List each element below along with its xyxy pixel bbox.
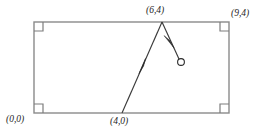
- billiard-table-diagram: (0,0) (4,0) (6,4) (9,4): [0, 0, 262, 135]
- ball-icon: [178, 59, 185, 66]
- path-segment-outgoing: [162, 22, 179, 59]
- right-angle-markers: [34, 22, 229, 113]
- corner-marker-top-left: [34, 22, 43, 31]
- coordinate-label-bottom-point: (4,0): [110, 117, 128, 127]
- corner-marker-bottom-left: [34, 104, 43, 113]
- coordinate-label-top-right: (9,4): [231, 9, 249, 19]
- table-rectangle: [34, 22, 229, 113]
- coordinate-label-origin: (0,0): [6, 115, 24, 125]
- diagram-canvas: [0, 0, 262, 135]
- corner-marker-bottom-right: [220, 104, 229, 113]
- coordinate-label-apex: (6,4): [146, 6, 164, 16]
- corner-marker-top-right: [220, 22, 229, 31]
- arrowhead-incoming-icon: [139, 59, 146, 74]
